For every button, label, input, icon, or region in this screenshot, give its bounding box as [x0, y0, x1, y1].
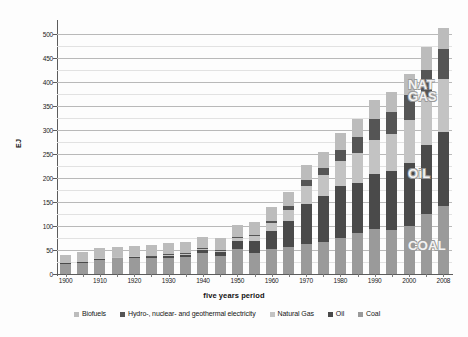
bar-segment — [301, 186, 312, 204]
bar-segment — [163, 258, 174, 274]
y-tick-label: 150 — [13, 199, 53, 206]
bar-segment — [215, 251, 226, 253]
annotation-oil: OiL — [408, 168, 431, 180]
bar-1925 — [146, 245, 157, 274]
bar-segment — [369, 229, 380, 274]
bar-1945 — [215, 238, 226, 274]
x-tick-label: 1950 — [224, 277, 250, 285]
legend-item: Coal — [358, 310, 380, 318]
bar-1990 — [369, 100, 380, 274]
x-tick-label: 1940 — [190, 277, 216, 285]
bar-segment — [404, 120, 415, 162]
bar-segment — [318, 175, 329, 196]
x-tick-label: 1930 — [156, 277, 182, 285]
bar-segment — [386, 171, 397, 230]
plot-area — [57, 22, 452, 274]
bar-segment — [266, 207, 277, 220]
bar-segment — [352, 153, 363, 183]
legend-swatch-icon — [270, 312, 275, 317]
bar-segment — [77, 252, 88, 262]
bar-segment — [180, 242, 191, 253]
legend-label: Oil — [336, 310, 344, 318]
x-tick-mark — [358, 274, 359, 277]
legend-label: Biofuels — [82, 310, 106, 318]
stacked-bar-chart: EJ five years period 0501001502002503003… — [0, 0, 468, 337]
bar-segment — [180, 257, 191, 274]
bar-segment — [232, 249, 243, 274]
x-tick-mark — [392, 274, 393, 277]
bar-segment — [369, 100, 380, 119]
bar-segment — [146, 257, 157, 258]
bar-segment — [301, 165, 312, 180]
legend-item: Biofuels — [74, 310, 106, 318]
bar-segment — [163, 255, 174, 256]
x-tick-label: 2008 — [430, 277, 456, 285]
legend-label: Coal — [366, 310, 380, 318]
bar-segment — [283, 247, 294, 274]
legend-swatch-icon — [358, 312, 363, 317]
x-tick-mark — [117, 274, 118, 277]
bar-1905 — [77, 252, 88, 274]
bar-1920 — [129, 246, 140, 274]
annotation-natural-gas: NAT GAS — [408, 79, 437, 103]
bar-segment — [60, 255, 71, 263]
x-tick-label: 1990 — [362, 277, 388, 285]
bar-segment — [318, 152, 329, 168]
bar-segment — [146, 245, 157, 256]
x-tick-label: 1900 — [53, 277, 79, 285]
bar-segment — [369, 119, 380, 139]
bar-segment — [163, 243, 174, 254]
bar-segment — [438, 49, 449, 79]
bar-segment — [163, 256, 174, 258]
y-tick-label: 500 — [13, 31, 53, 38]
y-tick-label: 100 — [13, 223, 53, 230]
bar-segment — [421, 47, 432, 69]
bar-segment — [215, 238, 226, 250]
y-tick-label: 450 — [13, 55, 53, 62]
bar-segment — [197, 249, 208, 250]
x-tick-label: 1960 — [259, 277, 285, 285]
x-tick-label: 1910 — [87, 277, 113, 285]
bar-segment — [249, 222, 260, 234]
bar-segment — [215, 252, 226, 255]
legend-swatch-icon — [120, 312, 125, 317]
bar-segment — [249, 235, 260, 236]
bar-segment — [283, 206, 294, 209]
bar-segment — [352, 233, 363, 274]
legend-label: Natural Gas — [278, 310, 314, 318]
bar-segment — [335, 186, 346, 239]
bar-segment — [232, 225, 243, 237]
bar-segment — [129, 257, 140, 258]
y-tick-label: 300 — [13, 127, 53, 134]
y-axis-title: EJ — [15, 139, 22, 148]
bar-segment — [335, 150, 346, 161]
bar-segment — [283, 210, 294, 222]
y-tick-label: 50 — [13, 247, 53, 254]
legend-swatch-icon — [74, 312, 79, 317]
bar-segment — [438, 28, 449, 49]
bar-segment — [249, 241, 260, 253]
bar-1965 — [283, 192, 294, 274]
bar-segment — [318, 196, 329, 242]
bar-segment — [266, 221, 277, 223]
bar-segment — [301, 244, 312, 274]
bar-segment — [386, 230, 397, 274]
bar-segment — [335, 161, 346, 186]
bar-segment — [266, 223, 277, 231]
bar-1980 — [335, 133, 346, 274]
bar-segment — [318, 168, 329, 175]
x-tick-label: 1970 — [293, 277, 319, 285]
bar-1935 — [180, 242, 191, 274]
bar-segment — [249, 236, 260, 241]
bar-segment — [232, 238, 243, 241]
bar-segment — [352, 183, 363, 233]
bar-segment — [94, 259, 105, 274]
bar-segment — [180, 255, 191, 257]
bar-segment — [283, 192, 294, 206]
bar-segment — [180, 254, 191, 255]
bar-segment — [421, 97, 432, 145]
y-tick-label: 350 — [13, 103, 53, 110]
bar-segment — [352, 119, 363, 137]
bar-1970 — [301, 165, 312, 274]
bar-segment — [438, 79, 449, 132]
